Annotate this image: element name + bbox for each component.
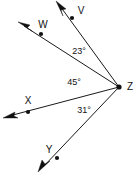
point-v-dot (70, 16, 74, 20)
vertex-z-label: Z (127, 81, 133, 92)
point-w-label: W (38, 19, 48, 30)
ray-zv-arrowhead (56, 1, 66, 16)
point-x-dot (26, 110, 30, 114)
geometry-diagram: V W X Y Z 23° 45° 3 (0, 0, 139, 176)
ray-zx-arrowhead (3, 112, 18, 118)
angle-xzy-label: 31° (77, 105, 91, 115)
point-y-dot (55, 156, 59, 160)
ray-zy-line (43, 87, 119, 167)
vertex-z-dot (116, 84, 121, 89)
point-y-label: Y (46, 144, 53, 155)
geometry-canvas: V W X Y Z 23° 45° 3 (0, 0, 139, 176)
ray-zw-arrowhead (18, 22, 32, 31)
ray-zy-group: Y (38, 87, 119, 172)
angle-vzw-label: 23° (72, 46, 86, 56)
angle-wzx-label: 45° (67, 77, 81, 87)
vertex-z-group: Z (116, 81, 133, 92)
point-v-label: V (78, 5, 85, 16)
point-w-dot (39, 32, 43, 36)
ray-zv-line (60, 6, 119, 87)
point-x-label: X (25, 95, 32, 106)
ray-zx-group: X (3, 87, 119, 118)
ray-zv-group: V (56, 1, 119, 87)
